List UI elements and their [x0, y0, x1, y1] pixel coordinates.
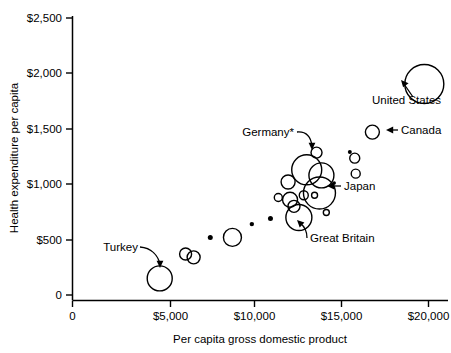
x-tick-label-5000: $5,000 [153, 310, 188, 322]
bubble-point[interactable] [187, 251, 200, 264]
bubble-point[interactable] [268, 216, 273, 221]
canada-label: Canada [401, 124, 442, 136]
turkey-leader-arrow [157, 261, 164, 268]
y-axis: $2,500 $2,000 $1,500 $1,000 $500 0 Healt… [8, 12, 73, 301]
great-britain-label: Great Britain [310, 232, 375, 244]
turkey-label: Turkey [103, 241, 138, 253]
canada-leader-arrow [386, 127, 393, 134]
y-tick-label-0: 0 [56, 289, 62, 301]
bubble-point[interactable] [223, 228, 241, 246]
bubble-point[interactable] [311, 147, 322, 158]
japan-label: Japan [344, 180, 375, 192]
bubble-point[interactable] [312, 192, 318, 198]
annotation-layer: Turkey Germany* Japan Great Britain Unit… [103, 80, 442, 268]
x-tick-label-20000: $20,000 [408, 310, 450, 322]
y-tick-label-1500: $1,500 [27, 123, 62, 135]
bubble-canada[interactable] [365, 125, 379, 139]
y-tick-label-2000: $2,000 [27, 67, 62, 79]
bubble-turkey[interactable] [147, 266, 172, 291]
chart-canvas: $2,500 $2,000 $1,500 $1,000 $500 0 Healt… [0, 0, 451, 353]
germany-leader-arrow [309, 143, 316, 150]
x-tick-label-15000: $15,000 [321, 310, 363, 322]
y-tick-label-2500: $2,500 [27, 12, 62, 24]
united-states-label: United States [372, 94, 441, 106]
x-axis: 0 $5,000 $10,000 $15,000 $20,000 Per cap… [69, 301, 449, 346]
x-axis-title: Per capita gross domestic product [173, 333, 348, 345]
bubble-point[interactable] [180, 248, 192, 260]
bubble-point[interactable] [250, 222, 254, 226]
bubble-point[interactable] [348, 150, 352, 154]
scatter-chart: $2,500 $2,000 $1,500 $1,000 $500 0 Healt… [0, 0, 451, 353]
bubble-point[interactable] [208, 235, 213, 240]
bubble-point[interactable] [350, 153, 360, 163]
x-tick-label-10000: $10,000 [234, 310, 276, 322]
germany-label: Germany* [242, 126, 294, 138]
bubble-point[interactable] [323, 209, 329, 215]
bubble-great-britain[interactable] [286, 204, 312, 230]
y-tick-label-1000: $1,000 [27, 178, 62, 190]
bubble-point[interactable] [274, 194, 282, 202]
bubble-germany[interactable] [292, 155, 322, 185]
y-tick-label-500: $500 [36, 234, 62, 246]
y-axis-title: Health expenditure per capita [8, 82, 20, 233]
bubble-point[interactable] [351, 169, 360, 178]
x-tick-label-0: 0 [69, 310, 75, 322]
